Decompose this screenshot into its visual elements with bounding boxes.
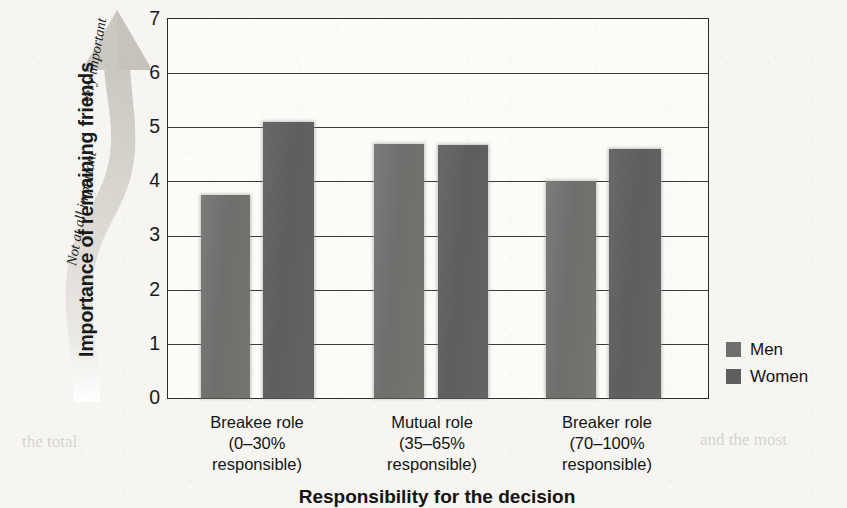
x-category-line-3: responsible)	[177, 454, 337, 475]
y-axis-title: Importance of remaining friends	[75, 20, 98, 400]
bar-women-breaker[interactable]	[609, 149, 661, 398]
chart-plot-area	[167, 18, 709, 399]
x-category-line-3: responsible)	[527, 454, 687, 475]
gridline-6	[168, 73, 708, 74]
x-category-label-breaker: Breaker role (70–100% responsible)	[527, 412, 687, 475]
x-category-line-2: (35–65%	[352, 433, 512, 454]
page-showthrough-right: and the most	[700, 430, 787, 450]
x-category-line-1: Mutual role	[352, 412, 512, 433]
legend-swatch-men-icon	[726, 342, 741, 357]
legend-label-men: Men	[750, 340, 783, 360]
x-category-line-1: Breaker role	[527, 412, 687, 433]
x-category-line-1: Breakee role	[177, 412, 337, 433]
x-category-label-mutual: Mutual role (35–65% responsible)	[352, 412, 512, 475]
x-category-line-2: (70–100%	[527, 433, 687, 454]
x-category-line-2: (0–30%	[177, 433, 337, 454]
legend-item-women[interactable]: Women	[726, 363, 808, 390]
x-category-label-breakee: Breakee role (0–30% responsible)	[177, 412, 337, 475]
x-axis-title: Responsibility for the decision	[167, 486, 707, 508]
legend-label-women: Women	[750, 367, 808, 387]
bar-men-breaker[interactable]	[546, 181, 596, 398]
chart-legend: Men Women	[726, 336, 808, 390]
bar-men-mutual[interactable]	[374, 144, 424, 399]
bar-men-breakee[interactable]	[201, 195, 250, 398]
legend-swatch-women-icon	[726, 369, 741, 384]
x-category-line-3: responsible)	[352, 454, 512, 475]
legend-item-men[interactable]: Men	[726, 336, 808, 363]
page-showthrough-left: the total	[22, 432, 77, 452]
gridline-5	[168, 127, 708, 128]
bar-women-mutual[interactable]	[438, 145, 488, 398]
bar-women-breakee[interactable]	[263, 122, 314, 398]
